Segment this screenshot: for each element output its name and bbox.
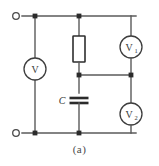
node-dot-top-left bbox=[33, 14, 38, 19]
capacitor-label: C bbox=[59, 95, 66, 106]
input-terminal-top bbox=[13, 13, 20, 20]
node-dot-mid-right bbox=[129, 73, 134, 78]
voltmeter-v-label: V bbox=[31, 64, 39, 75]
voltmeter-v1-label: V bbox=[125, 42, 133, 53]
node-dot-mid-center bbox=[77, 73, 82, 78]
voltmeter-v2-label: V bbox=[125, 109, 133, 120]
figure-caption: (a) bbox=[0, 143, 159, 155]
circuit-diagram-figure: V C V 1 V 2 (a) bbox=[0, 0, 159, 166]
voltmeter-v2-subscript: 2 bbox=[135, 114, 138, 121]
circuit-schematic: V C V 1 V 2 bbox=[0, 0, 159, 166]
resistor-body bbox=[73, 36, 85, 62]
voltmeter-v1-subscript: 1 bbox=[135, 47, 138, 54]
node-dot-bottom-mid bbox=[77, 131, 82, 136]
node-dot-top-mid bbox=[77, 14, 82, 19]
node-dot-bottom-left bbox=[33, 131, 38, 136]
input-terminal-bottom bbox=[13, 130, 20, 137]
